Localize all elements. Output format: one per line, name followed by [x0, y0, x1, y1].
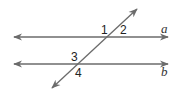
angle-label-4: 4: [75, 66, 82, 80]
angle-label-1: 1: [101, 23, 108, 37]
line-label-b: b: [161, 64, 168, 79]
angle-label-2: 2: [120, 23, 127, 37]
diagram-canvas: 1 2 3 4 a b: [0, 0, 176, 93]
transversal-line: [52, 9, 137, 88]
angle-label-3: 3: [71, 50, 78, 64]
line-label-a: a: [161, 21, 168, 36]
